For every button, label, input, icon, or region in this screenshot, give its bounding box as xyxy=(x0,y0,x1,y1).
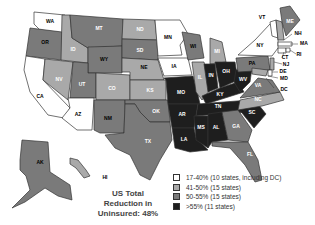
svg-text:NV: NV xyxy=(56,76,64,82)
svg-text:MO: MO xyxy=(177,89,185,95)
svg-text:KY: KY xyxy=(217,91,225,97)
svg-text:MS: MS xyxy=(197,124,205,130)
svg-text:DE: DE xyxy=(280,68,288,74)
svg-text:OH: OH xyxy=(222,68,230,74)
svg-text:AL: AL xyxy=(213,124,220,130)
svg-text:AZ: AZ xyxy=(75,111,82,117)
svg-text:ND: ND xyxy=(136,26,144,32)
svg-text:FL: FL xyxy=(247,151,253,157)
svg-text:MA: MA xyxy=(300,40,308,46)
svg-text:CT: CT xyxy=(282,54,289,60)
legend-label: 50-55% (15 states) xyxy=(186,193,241,200)
svg-text:MI: MI xyxy=(214,48,220,54)
legend-item: 50-55% (15 states) xyxy=(173,192,281,202)
state-de xyxy=(268,70,272,76)
state-ma xyxy=(278,42,292,46)
state-nj xyxy=(270,58,274,70)
legend-swatch xyxy=(173,184,180,191)
title-line: US Total xyxy=(88,189,168,199)
svg-text:AR: AR xyxy=(178,111,186,117)
svg-text:TX: TX xyxy=(145,138,152,144)
svg-text:AK: AK xyxy=(36,159,44,165)
svg-text:MT: MT xyxy=(95,25,102,31)
svg-text:UT: UT xyxy=(79,81,86,87)
svg-text:MD: MD xyxy=(280,75,288,81)
map-title: US Total Reduction in Uninsured: 48% xyxy=(88,189,168,219)
svg-text:NH: NH xyxy=(294,30,302,36)
svg-text:NM: NM xyxy=(104,115,112,121)
svg-text:VT: VT xyxy=(259,14,265,20)
legend-item: >55% (11 states) xyxy=(173,202,281,212)
svg-text:WI: WI xyxy=(190,43,197,49)
svg-text:ME: ME xyxy=(286,18,294,24)
svg-text:GA: GA xyxy=(232,123,240,129)
svg-text:NJ: NJ xyxy=(283,61,290,67)
svg-text:CA: CA xyxy=(36,93,44,99)
svg-text:SC: SC xyxy=(249,109,256,115)
svg-text:PA: PA xyxy=(249,60,256,66)
svg-text:CO: CO xyxy=(108,85,116,91)
title-line: Uninsured: 48% xyxy=(88,209,168,219)
legend-label: 41-50% (15 states) xyxy=(186,184,241,191)
title-line: Reduction in xyxy=(88,199,168,209)
legend-swatch xyxy=(173,203,180,210)
svg-text:TN: TN xyxy=(215,103,222,109)
state-ak xyxy=(12,140,72,208)
svg-text:DC: DC xyxy=(280,86,288,92)
svg-text:NY: NY xyxy=(257,42,265,48)
svg-text:SD: SD xyxy=(137,47,144,53)
svg-text:OK: OK xyxy=(152,108,160,114)
legend-item: 41-50% (15 states) xyxy=(173,183,281,193)
svg-text:NE: NE xyxy=(141,64,149,70)
legend-label: >55% (11 states) xyxy=(186,203,235,210)
state-ct xyxy=(278,48,286,53)
svg-text:OR: OR xyxy=(41,39,49,45)
svg-text:IL: IL xyxy=(198,74,202,80)
svg-text:LA: LA xyxy=(181,136,188,142)
svg-text:ID: ID xyxy=(71,46,76,52)
state-ri xyxy=(286,48,290,52)
svg-text:WY: WY xyxy=(100,56,109,62)
svg-text:MN: MN xyxy=(164,34,172,40)
svg-text:RI: RI xyxy=(297,51,303,57)
legend-label: 17-40% (10 states, including DC) xyxy=(186,174,281,181)
svg-text:IA: IA xyxy=(172,63,177,69)
map-legend: 17-40% (10 states, including DC) 41-50% … xyxy=(173,173,281,211)
legend-item: 17-40% (10 states, including DC) xyxy=(173,173,281,183)
svg-text:KS: KS xyxy=(147,87,155,93)
svg-text:WA: WA xyxy=(46,18,54,24)
svg-text:WV: WV xyxy=(239,76,248,82)
svg-text:VA: VA xyxy=(255,82,262,88)
svg-text:NC: NC xyxy=(254,96,262,102)
svg-text:HI: HI xyxy=(103,174,109,180)
legend-swatch xyxy=(173,174,180,181)
state-hi xyxy=(70,158,90,178)
legend-swatch xyxy=(173,193,180,200)
svg-text:IN: IN xyxy=(209,72,214,78)
